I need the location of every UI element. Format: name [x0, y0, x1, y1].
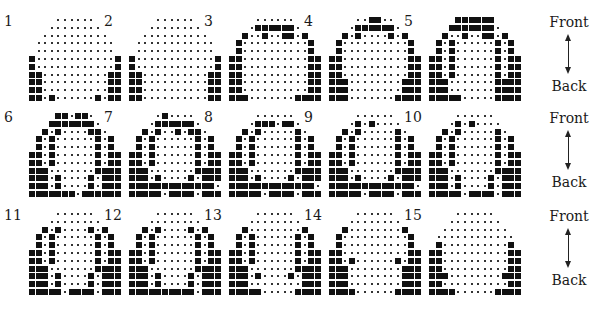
panel-number: 7 [104, 110, 113, 124]
inactive-electrode [94, 24, 102, 32]
inactive-electrode [387, 210, 395, 218]
inactive-electrode [394, 24, 402, 32]
back-label: Back [534, 272, 604, 288]
inactive-electrode [194, 120, 202, 128]
active-electrode [507, 143, 515, 151]
pattern-panel: 4 [302, 12, 402, 108]
front-label: Front [534, 110, 604, 126]
panel-number: 14 [304, 208, 322, 222]
inactive-electrode [294, 120, 302, 128]
active-electrode [514, 167, 522, 175]
inactive-electrode [87, 112, 95, 120]
double-arrow-icon [564, 34, 574, 74]
pattern-panel: 2 [102, 12, 202, 108]
panel-number: 8 [204, 110, 213, 124]
active-electrode [514, 55, 522, 63]
inactive-electrode [501, 128, 509, 136]
active-electrode [514, 288, 522, 296]
active-electrode [514, 151, 522, 159]
active-electrode [501, 32, 509, 40]
pattern-panel: 15 [402, 206, 502, 302]
active-electrode [514, 182, 522, 190]
inactive-electrode [287, 210, 295, 218]
inactive-electrode [187, 112, 195, 120]
back-label: Back [534, 78, 604, 94]
front-label: Front [534, 208, 604, 224]
pattern-panel: 13 [202, 206, 302, 302]
active-electrode [514, 257, 522, 265]
panel-number: 13 [204, 208, 222, 222]
inactive-electrode [287, 112, 295, 120]
pattern-panel: 6 [2, 108, 102, 204]
active-electrode [514, 63, 522, 71]
panel-number: 4 [304, 14, 313, 28]
active-electrode [507, 47, 515, 55]
pattern-panel: 9 [302, 108, 402, 204]
panel-number: 9 [304, 110, 313, 124]
inactive-electrode [294, 218, 302, 226]
inactive-electrode [387, 16, 395, 24]
active-electrode [514, 94, 522, 102]
panel-number: 1 [4, 14, 13, 28]
inactive-electrode [187, 210, 195, 218]
panel-number: 3 [204, 14, 213, 28]
inactive-electrode [394, 218, 402, 226]
inactive-electrode [194, 218, 202, 226]
inactive-electrode [194, 24, 202, 32]
inactive-electrode [494, 218, 502, 226]
pattern-panel: 7 [102, 108, 202, 204]
pattern-panel: 11 [2, 206, 102, 302]
panel-number: 2 [104, 14, 113, 28]
active-electrode [514, 280, 522, 288]
active-electrode [514, 272, 522, 280]
active-electrode [514, 78, 522, 86]
panel-number: 10 [404, 110, 422, 124]
orientation-legend: FrontBack [534, 208, 604, 288]
active-electrode [514, 190, 522, 198]
double-arrow-icon [564, 228, 574, 268]
inactive-electrode [287, 16, 295, 24]
active-electrode [507, 39, 515, 47]
pattern-panel: 14 [302, 206, 402, 302]
active-electrode [507, 135, 515, 143]
inactive-electrode [87, 16, 95, 24]
orientation-legend: FrontBack [534, 110, 604, 190]
inactive-electrode [487, 112, 495, 120]
pattern-panel: 10 [402, 108, 502, 204]
back-label: Back [534, 174, 604, 190]
pattern-panel: 8 [202, 108, 302, 204]
inactive-electrode [487, 210, 495, 218]
double-arrow-icon [564, 130, 574, 170]
active-electrode [487, 16, 495, 24]
active-electrode [514, 249, 522, 257]
pattern-panel: 5 [402, 12, 502, 108]
panel-number: 6 [4, 110, 13, 124]
inactive-electrode [294, 24, 302, 32]
active-electrode [514, 71, 522, 79]
front-label: Front [534, 14, 604, 30]
inactive-electrode [507, 233, 515, 241]
panel-number: 11 [4, 208, 22, 222]
orientation-legend: FrontBack [534, 14, 604, 94]
pattern-panel: 12 [102, 206, 202, 302]
inactive-electrode [387, 112, 395, 120]
inactive-electrode [494, 120, 502, 128]
pattern-panel: 1 [2, 12, 102, 108]
inactive-electrode [94, 218, 102, 226]
active-electrode [514, 265, 522, 273]
active-electrode [514, 159, 522, 167]
inactive-electrode [494, 24, 502, 32]
inactive-electrode [501, 226, 509, 234]
panel-number: 5 [404, 14, 413, 28]
inactive-electrode [187, 16, 195, 24]
active-electrode [507, 241, 515, 249]
inactive-electrode [394, 120, 402, 128]
pattern-panel: 3 [202, 12, 302, 108]
panel-number: 15 [404, 208, 422, 222]
panel-number: 12 [104, 208, 122, 222]
active-electrode [514, 174, 522, 182]
active-electrode [514, 86, 522, 94]
inactive-electrode [87, 210, 95, 218]
inactive-electrode [94, 120, 102, 128]
